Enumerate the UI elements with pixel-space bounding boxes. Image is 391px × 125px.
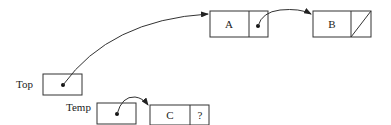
top-to-a-arrow (63, 14, 208, 85)
node-b-value: B (328, 18, 335, 30)
node-c-value: C (166, 109, 173, 121)
temp-pointer: Temp (66, 97, 148, 124)
top-label: Top (16, 78, 33, 90)
node-b-box (313, 11, 371, 37)
node-a: A (210, 10, 311, 38)
temp-label: Temp (66, 101, 91, 113)
node-c: C ? (150, 105, 209, 125)
node-a-value: A (225, 18, 233, 30)
linked-list-diagram: Top A B Temp C ? (0, 0, 391, 125)
node-b: B (313, 11, 371, 37)
node-c-next-unknown: ? (198, 109, 203, 121)
top-pointer: Top (16, 14, 208, 95)
node-a-box (210, 11, 268, 37)
